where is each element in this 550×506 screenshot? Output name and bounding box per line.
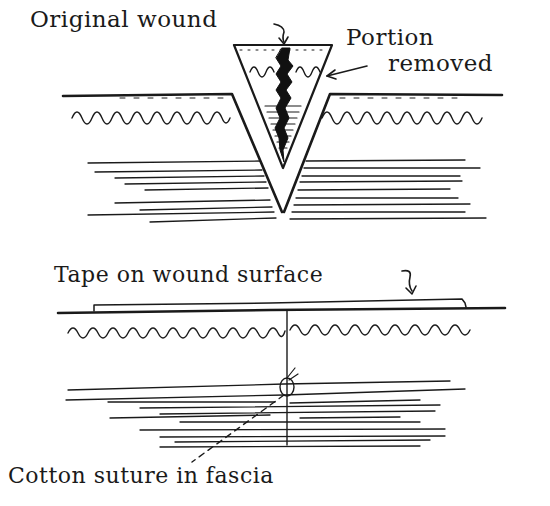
bottom-figure — [58, 271, 505, 462]
label-portion-removed-2: removed — [388, 50, 493, 76]
label-tape: Tape on wound surface — [54, 262, 323, 287]
label-portion-removed-1: Portion — [346, 24, 434, 50]
dermis-wave-right — [322, 112, 482, 124]
skin-surface-right — [284, 94, 502, 212]
original-wound-mark — [275, 48, 293, 162]
original-wound-arrow — [274, 24, 284, 42]
label-original-wound: Original wound — [30, 6, 217, 32]
muscle-hatching-left — [88, 161, 276, 222]
suture-leader-line — [192, 395, 284, 462]
skin-surface-closed — [58, 308, 505, 313]
fascia-hatching — [66, 381, 465, 447]
label-suture: Cotton suture in fascia — [8, 463, 274, 488]
muscle-hatching-right — [290, 160, 486, 219]
dermis-wave-left — [72, 112, 230, 124]
